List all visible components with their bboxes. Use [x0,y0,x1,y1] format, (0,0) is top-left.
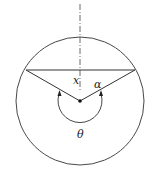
arrowhead-left-icon [58,90,62,96]
right-radius [80,70,135,101]
center-point [78,99,82,103]
theta-angle-arc [58,94,102,123]
circle-chord-diagram: x α θ [0,0,151,172]
left-radius [26,70,80,101]
label-x: x [73,74,80,87]
label-theta: θ [77,128,84,141]
label-alpha: α [94,78,102,91]
